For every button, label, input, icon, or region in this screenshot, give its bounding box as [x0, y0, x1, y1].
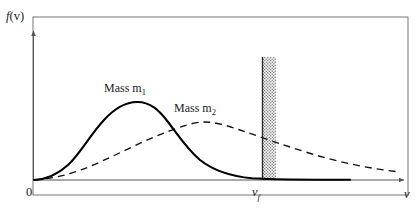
- vf-tick-label-subscript: f: [258, 192, 260, 202]
- curve-mass-m1-label: Mass m1: [104, 82, 146, 97]
- outer-border: [33, 17, 408, 195]
- curve-mass-m1-label-subscript: 1: [142, 87, 146, 97]
- hatched-band: [263, 57, 277, 180]
- curve-mass-m2: [34, 122, 400, 180]
- curve-mass-m1-label-text: Mass m: [104, 81, 142, 95]
- y-axis-label-arg: (v): [9, 9, 24, 23]
- curve-mass-m2-label: Mass m2: [174, 102, 216, 117]
- speed-distribution-figure: f(v) v 0 vf Mass m1 Mass m2: [0, 0, 420, 212]
- vf-tick-label: vf: [252, 186, 260, 201]
- y-axis-label: f(v): [6, 10, 24, 23]
- origin-tick-label: 0: [26, 186, 32, 199]
- curve-mass-m2-label-text: Mass m: [174, 101, 212, 115]
- x-axis-label: v: [404, 188, 410, 201]
- curve-mass-m2-label-subscript: 2: [212, 107, 216, 117]
